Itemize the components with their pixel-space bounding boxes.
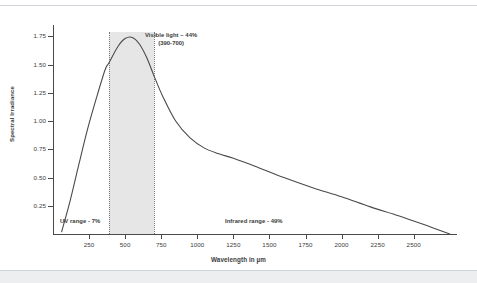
chart-figure: 0.250.500.751.001.251.501.75 25050075010… — [0, 7, 477, 269]
page-bottom-band — [0, 271, 477, 283]
y-tick-label: 1.75 — [34, 32, 46, 39]
spectral-irradiance-curve — [0, 7, 477, 269]
y-tick-mark — [48, 93, 53, 94]
uv-range-annotation: UV range - 7% — [60, 218, 100, 224]
x-axis-line — [53, 234, 457, 235]
x-tick-mark — [306, 235, 307, 239]
x-tick-mark — [125, 235, 126, 239]
plot-area: 0.250.500.751.001.251.501.75 25050075010… — [0, 7, 477, 269]
y-tick-label: 0.75 — [34, 145, 46, 152]
x-tick-label: 2000 — [334, 241, 348, 248]
visible-light-annotation-line1: Visible light – 44% — [145, 31, 197, 39]
y-tick-mark — [48, 121, 53, 122]
y-tick-mark — [48, 65, 53, 66]
x-tick-label: 1500 — [262, 241, 276, 248]
x-tick-label: 1000 — [190, 241, 204, 248]
y-tick-mark — [48, 36, 53, 37]
y-tick-label: 0.50 — [34, 174, 46, 181]
visible-light-annotation: Visible light – 44% (390-700) — [145, 31, 197, 47]
x-tick-label: 1750 — [298, 241, 312, 248]
x-tick-label: 2250 — [371, 241, 385, 248]
y-tick-label: 1.00 — [34, 117, 46, 124]
y-tick-label: 1.50 — [34, 61, 46, 68]
x-tick-mark — [233, 235, 234, 239]
y-tick-label: 1.25 — [34, 89, 46, 96]
x-tick-label: 500 — [120, 241, 131, 248]
x-tick-label: 250 — [84, 241, 95, 248]
x-tick-mark — [269, 235, 270, 239]
x-tick-label: 1250 — [226, 241, 240, 248]
x-tick-mark — [197, 235, 198, 239]
visible-light-annotation-line2: (390-700) — [145, 39, 197, 47]
y-tick-label: 0.25 — [34, 202, 46, 209]
page-top-divider — [0, 5, 477, 6]
curve-path — [62, 37, 450, 234]
x-tick-label: 2500 — [407, 241, 421, 248]
y-axis-title: Spectral Irradiance — [9, 66, 15, 162]
y-axis-line — [53, 25, 54, 234]
x-tick-mark — [342, 235, 343, 239]
y-tick-mark — [48, 149, 53, 150]
infrared-range-annotation: Infrared range - 49% — [225, 218, 283, 224]
x-tick-label: 750 — [156, 241, 167, 248]
x-tick-mark — [89, 235, 90, 239]
x-tick-mark — [378, 235, 379, 239]
x-tick-mark — [414, 235, 415, 239]
y-tick-mark — [48, 206, 53, 207]
x-tick-mark — [161, 235, 162, 239]
x-axis-title: Wavelength in µm — [0, 256, 477, 263]
y-tick-mark — [48, 178, 53, 179]
